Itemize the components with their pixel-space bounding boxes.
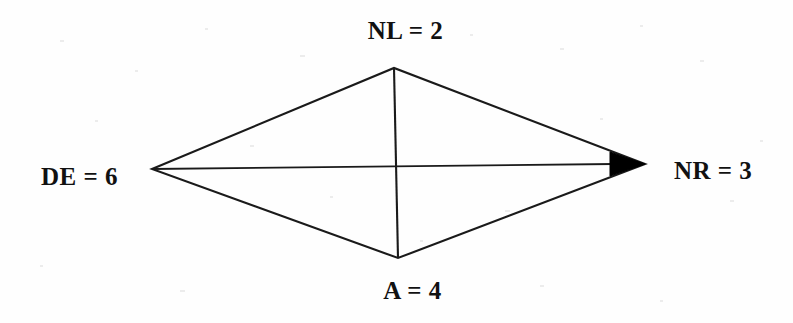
- vertex-label-right-nr: NR = 3: [674, 158, 752, 183]
- diagram-canvas: NL = 2 DE = 6 NR = 3 A = 4: [0, 0, 793, 323]
- diamond-outline: [152, 68, 645, 258]
- vertex-label-bottom-a: A = 4: [16, 278, 793, 303]
- vertex-label-left-de: DE = 6: [41, 164, 118, 189]
- arrowhead-icon: [610, 152, 645, 176]
- vertex-label-top-nl: NL = 2: [9, 18, 793, 43]
- diagonal-horizontal-line: [152, 164, 614, 169]
- diagonal-vertical-line: [394, 68, 398, 258]
